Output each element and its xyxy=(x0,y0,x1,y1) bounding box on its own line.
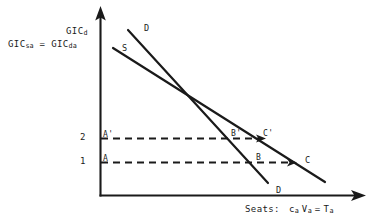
y-tick-label-1: 1 xyxy=(80,157,86,166)
x-axis-label-prefix: Seats: xyxy=(245,204,280,214)
demand-curve xyxy=(128,30,268,183)
y-tick-label-2: 2 xyxy=(80,133,86,142)
diagram-canvas xyxy=(0,0,373,224)
curve-label-supply-top: S xyxy=(122,44,128,53)
point-label-A-prime: A' xyxy=(103,131,113,139)
y-axis-label-top-text: GIC xyxy=(66,26,83,36)
x-axis-line xyxy=(100,190,367,201)
y-axis-label: GICsa = GICda xyxy=(8,40,77,49)
supply-demand-figure: GICsa = GICda GICd Seats:caVa=Ta 2 1 D D… xyxy=(0,0,373,224)
point-label-B-prime: B' xyxy=(231,130,241,138)
y-axis-label-eq: = xyxy=(34,39,51,49)
curve-label-demand-top: D xyxy=(144,24,150,33)
x-axis-term-t-sub: a xyxy=(329,207,333,215)
y-axis-label-top: GICd xyxy=(66,27,88,36)
y-axis-label-sub1: sa xyxy=(25,42,33,50)
x-axis-label: Seats:caVa=Ta xyxy=(245,205,334,214)
y-axis-label-text2: GIC xyxy=(51,39,68,49)
x-axis-term-v-sub: a xyxy=(308,207,312,215)
point-label-A: A xyxy=(103,155,108,163)
y-axis-label-top-sub: d xyxy=(83,29,87,37)
curve-label-demand-bottom: D xyxy=(276,186,282,195)
curve-label-supply-right: C xyxy=(305,156,311,165)
point-label-C-prime: C' xyxy=(263,130,273,138)
y-axis-label-text: GIC xyxy=(8,39,25,49)
y-axis-label-sub2: da xyxy=(69,42,77,50)
level-1-dashed-line xyxy=(101,159,297,167)
x-axis-equals: = xyxy=(315,204,321,214)
point-label-B: B xyxy=(256,154,261,162)
x-axis-term-c-sub: a xyxy=(295,207,299,215)
y-axis-line xyxy=(95,6,106,197)
